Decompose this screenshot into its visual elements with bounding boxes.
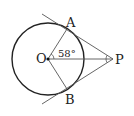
angle-arc-aop: [51, 54, 54, 59]
angle-arc-p-bottom: [106, 59, 107, 63]
label-b: B: [65, 93, 75, 106]
label-angle: 58°: [58, 49, 76, 59]
label-p: P: [115, 53, 124, 66]
center-point: [46, 57, 49, 60]
label-o: O: [36, 52, 47, 65]
label-a: A: [66, 16, 75, 29]
geometry-figure: A O 58° P B: [0, 0, 134, 116]
angle-arc-p-top: [106, 55, 107, 59]
radius-ob: [48, 59, 67, 89]
